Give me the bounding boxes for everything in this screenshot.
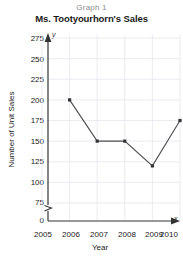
data-point-2007 [96,140,99,143]
data-point-2008 [123,140,126,143]
data-point-2006 [68,98,71,101]
axis-lines [45,33,181,224]
data-point-2009 [151,164,154,167]
gridlines [42,34,180,221]
chart-plot-svg [0,0,183,264]
chart-container: Graph 1 Ms. Tootyourhorn's Sales Number … [0,0,183,264]
data-point-2010 [178,119,181,122]
